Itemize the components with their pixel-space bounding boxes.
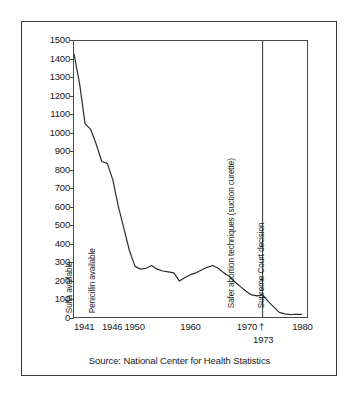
x-tick-label: 1970† <box>237 321 264 332</box>
source-note: Source: National Center for Health Stati… <box>0 355 359 366</box>
x-tick-label: 1941 <box>74 321 94 332</box>
x-tick-label: 1946 <box>102 321 122 332</box>
x-axis-tick-labels: 19411946195019601970†1980 <box>73 321 308 335</box>
y-tick-mark <box>70 318 74 319</box>
x-tick-label: 1980 <box>292 321 312 332</box>
y-tick-label: 700 <box>55 184 70 194</box>
y-tick-label: 1400 <box>50 54 70 64</box>
annotation-sulfa: Sulfa available <box>66 261 74 313</box>
x-axis-sub-tick-1973: 1973 <box>253 334 273 345</box>
y-tick-label: 1500 <box>50 35 70 45</box>
y-tick-label: 600 <box>55 202 70 212</box>
mortality-rate-line <box>74 54 301 315</box>
y-tick-label: 800 <box>55 165 70 175</box>
x-tick-label: 1950 <box>124 321 144 332</box>
x-tick-label: 1960 <box>180 321 200 332</box>
y-tick-label: 400 <box>55 239 70 249</box>
plot-area <box>73 40 308 318</box>
dagger-marker-icon: † <box>259 321 264 332</box>
y-tick-label: 1000 <box>50 128 70 138</box>
line-chart-svg <box>74 41 307 317</box>
y-tick-label: 1200 <box>50 91 70 101</box>
chart-figure: 0100200300400500600700800900100011001200… <box>0 0 359 399</box>
annotation-suction-curette: Safer abortion techniques (suction curet… <box>228 158 236 308</box>
annotation-penicillin: Penicillin available <box>89 248 97 313</box>
y-tick-label: 500 <box>55 221 70 231</box>
y-tick-label: 1100 <box>50 109 70 119</box>
y-tick-label: 900 <box>55 146 70 156</box>
y-tick-label: 1300 <box>50 72 70 82</box>
annotation-supreme-court: Supreme Court decision <box>258 223 266 309</box>
